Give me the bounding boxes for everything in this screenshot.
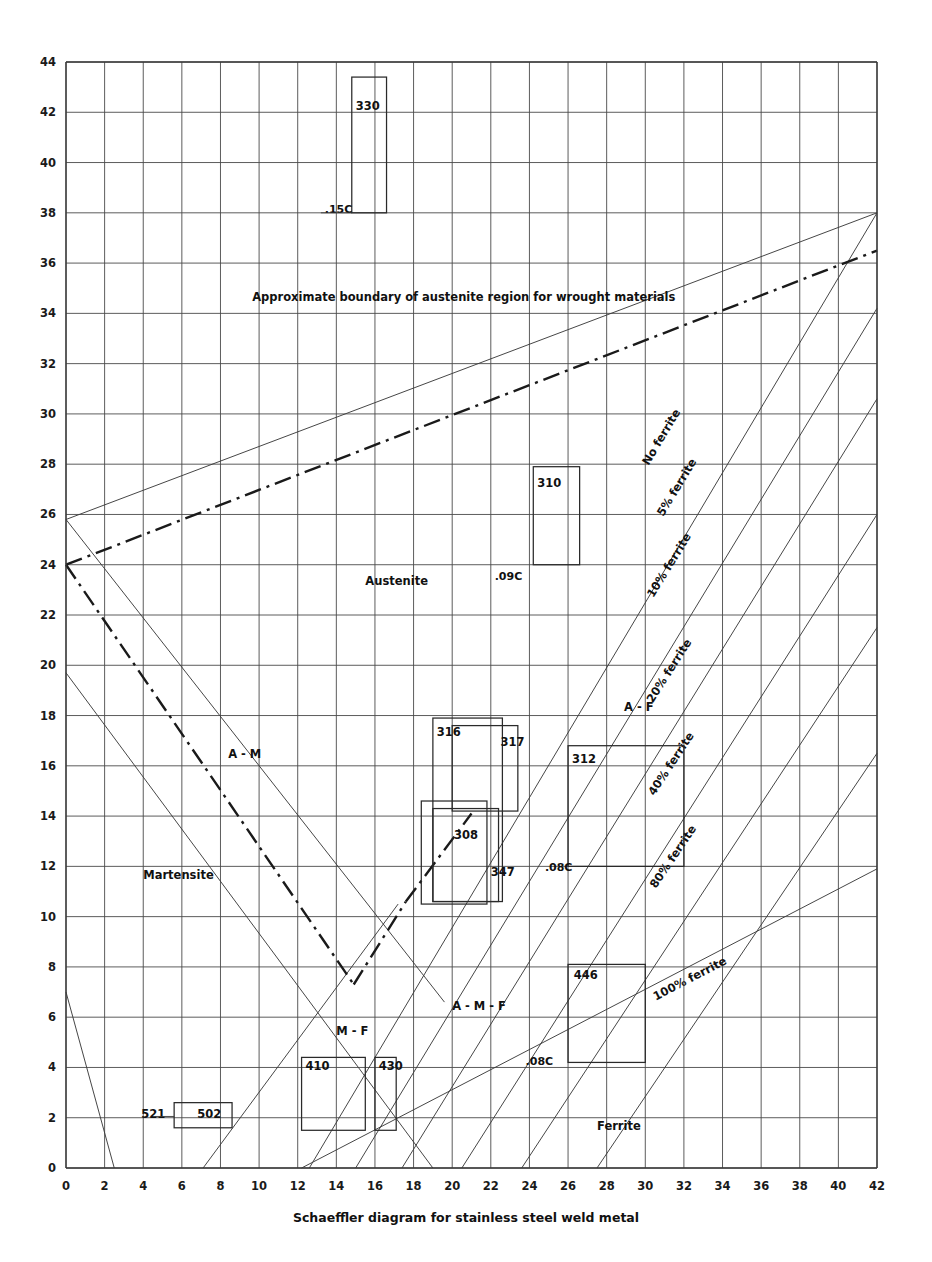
x-tick-label: 42: [869, 1179, 885, 1193]
grade-box-label-430: 430: [379, 1059, 403, 1073]
region-label-martensite: Martensite: [143, 868, 214, 882]
y-tick-label: 10: [40, 910, 56, 924]
x-tick-label: 18: [406, 1179, 422, 1193]
ferrite-line-4: [522, 628, 877, 1168]
ferrite-line-label-1: 5% ferrite: [654, 456, 700, 519]
y-tick-label: 38: [40, 206, 56, 220]
carbon-label-2: .08C: [545, 861, 573, 874]
ferrite-line-3: [462, 514, 877, 1168]
x-tick-label: 30: [637, 1179, 653, 1193]
ferrite-line-1: [356, 308, 877, 1168]
y-tick-label: 24: [40, 558, 56, 572]
schaeffler-chart-svg: No ferrite5% ferrite10% ferrite20% ferri…: [0, 0, 932, 1262]
austenite-boundary-layer: [66, 213, 877, 1002]
grade-box-layer: 330310316317312308347446410430502521: [141, 77, 684, 1130]
x-tick-label: 6: [178, 1179, 186, 1193]
y-tick-label: 4: [48, 1060, 56, 1074]
carbon-label-0: .15C: [325, 203, 353, 216]
x-tick-label: 34: [715, 1179, 731, 1193]
y-tick-label: 0: [48, 1161, 56, 1175]
ferrite-line-layer: No ferrite5% ferrite10% ferrite20% ferri…: [302, 213, 877, 1168]
ferrite-line-label-3: 20% ferrite: [643, 636, 694, 705]
region-label-m-f: M - F: [336, 1024, 368, 1038]
y-tick-label: 34: [40, 306, 56, 320]
grade-box-label-330: 330: [356, 99, 380, 113]
grade-box-label-310: 310: [537, 476, 561, 490]
y-tick-label: 14: [40, 809, 56, 823]
austenite-boundary-dashdot-left: [66, 565, 354, 985]
x-tick-label: 4: [139, 1179, 147, 1193]
y-tick-label: 22: [40, 608, 56, 622]
y-tick-label: 2: [48, 1111, 56, 1125]
grade-box-label-308: 308: [454, 828, 478, 842]
grade-box-label-317: 317: [500, 735, 524, 749]
ferrite-line-label-5: 80% ferrite: [647, 822, 700, 890]
austenite-boundary-note: Approximate boundary of austenite region…: [252, 290, 675, 304]
x-tick-label: 0: [62, 1179, 70, 1193]
figure-caption: Schaeffler diagram for stainless steel w…: [293, 1210, 639, 1225]
y-tick-label: 26: [40, 507, 56, 521]
x-tick-label: 28: [599, 1179, 615, 1193]
carbon-label-3: .08C: [526, 1055, 554, 1068]
x-tick-label: 40: [830, 1179, 846, 1193]
region-label-a-m: A - M: [228, 747, 261, 761]
x-tick-label: 32: [676, 1179, 692, 1193]
y-tick-label: 12: [40, 859, 56, 873]
grade-box-label-410: 410: [305, 1059, 329, 1073]
y-tick-label: 44: [40, 55, 56, 69]
x-tick-label: 2: [101, 1179, 109, 1193]
ferrite-line-6: [302, 869, 877, 1168]
m-f-left: [66, 992, 114, 1168]
m-f-diagonal: [203, 904, 398, 1168]
tick-label-layer: 0246810121416182022242628303234363840420…: [40, 55, 885, 1193]
grade-box-330: [352, 77, 387, 213]
ferrite-line-5: [597, 753, 877, 1168]
schaeffler-diagram-figure: No ferrite5% ferrite10% ferrite20% ferri…: [0, 0, 932, 1262]
x-tick-label: 36: [753, 1179, 769, 1193]
x-tick-label: 24: [521, 1179, 537, 1193]
ferrite-line-label-4: 40% ferrite: [645, 729, 697, 798]
grade-box-label-347: 347: [491, 865, 515, 879]
grade-box-label-521: 521: [141, 1107, 165, 1121]
x-tick-label: 38: [792, 1179, 808, 1193]
austenite-boundary-thin: [66, 213, 877, 520]
y-tick-label: 28: [40, 457, 56, 471]
y-tick-label: 18: [40, 709, 56, 723]
ferrite-line-label-6: 100% ferrite: [651, 953, 729, 1003]
carbon-label-1: .09C: [495, 570, 523, 583]
region-label-a-f: A - F: [624, 700, 654, 714]
region-label-ferrite: Ferrite: [597, 1119, 641, 1133]
y-tick-label: 36: [40, 256, 56, 270]
x-tick-label: 22: [483, 1179, 499, 1193]
x-tick-label: 26: [560, 1179, 576, 1193]
ferrite-line-0: [309, 213, 877, 1168]
grade-box-label-502: 502: [197, 1107, 221, 1121]
x-tick-label: 14: [328, 1179, 344, 1193]
x-tick-label: 16: [367, 1179, 383, 1193]
region-label-a-m-f: A - M - F: [452, 999, 506, 1013]
x-tick-label: 10: [251, 1179, 267, 1193]
x-tick-label: 20: [444, 1179, 460, 1193]
region-label-austenite: Austenite: [365, 574, 428, 588]
y-tick-label: 30: [40, 407, 56, 421]
y-tick-label: 6: [48, 1010, 56, 1024]
carbon-label-layer: .15C.09C.08C.08C: [321, 203, 573, 1068]
y-tick-label: 40: [40, 156, 56, 170]
y-tick-label: 42: [40, 105, 56, 119]
y-tick-label: 32: [40, 357, 56, 371]
x-tick-label: 12: [290, 1179, 306, 1193]
grade-box-label-316: 316: [437, 725, 461, 739]
x-tick-label: 8: [216, 1179, 224, 1193]
grade-box-label-446: 446: [574, 968, 598, 982]
grade-box-label-312: 312: [572, 752, 596, 766]
y-tick-label: 16: [40, 759, 56, 773]
y-tick-label: 20: [40, 658, 56, 672]
region-label-layer: AusteniteMartensiteFerriteA - MA - FA - …: [143, 574, 653, 1133]
y-tick-label: 8: [48, 960, 56, 974]
